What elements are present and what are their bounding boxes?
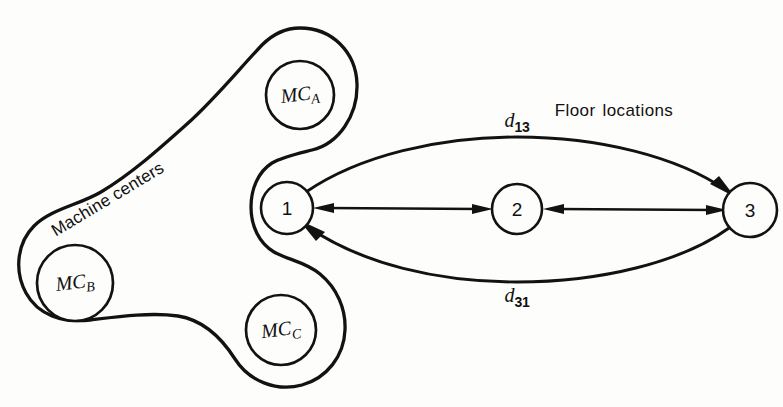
distance-symbol-d13: d [504, 109, 514, 131]
machine-center-subscript-c: C [291, 326, 302, 342]
machine-center-subscript-b: B [85, 279, 95, 295]
machine-center-prefix-b: MC [54, 270, 86, 295]
floor-locations-caption: Floor locations [555, 101, 674, 121]
distance-symbol-d31: d [504, 284, 514, 306]
arrow-head-2-3-left [543, 204, 564, 214]
link-line-2-3 [556, 209, 714, 210]
machine-center-prefix-a: MC [279, 82, 311, 107]
machine-center-label-b: MCB [54, 269, 96, 300]
machine-center-label-c: MCC [260, 315, 302, 346]
distance-label-d31: d31 [504, 284, 529, 310]
machine-center-label-a: MCA [279, 81, 321, 112]
distance-label-d13: d13 [504, 109, 529, 135]
machine-center-prefix-c: MC [260, 317, 292, 342]
figure-root: MCA MCB MCC 1 2 3 d13 d31 Floor location… [0, 0, 783, 407]
floor-location-label-2: 2 [512, 199, 523, 221]
distance-subscript-d13: 13 [514, 119, 529, 135]
arrow-head-1-2-left [313, 203, 334, 213]
arrow-head-1-2-right [472, 204, 493, 214]
floor-location-label-3: 3 [745, 200, 756, 222]
distance-subscript-d31: 31 [514, 294, 529, 310]
floor-location-label-1: 1 [282, 198, 293, 220]
link-line-1-2 [326, 208, 480, 209]
machine-center-subscript-a: A [310, 91, 320, 107]
